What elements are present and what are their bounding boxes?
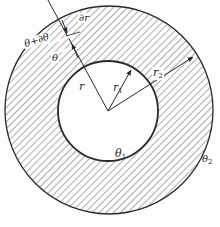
label-r: r <box>79 81 84 92</box>
label-theta2: θ2 <box>202 154 213 166</box>
label-dr: ∂r <box>78 13 90 23</box>
diagram-canvas: ∂r θ+∂θ θ r r1 r2 θ1 θ2 <box>0 0 220 227</box>
label-theta1: θ1 <box>115 148 126 161</box>
label-r1-sub: 1 <box>118 87 122 95</box>
annulus-figure <box>0 0 220 227</box>
label-theta1-sub: 1 <box>122 153 126 161</box>
label-theta1-base: θ <box>115 147 122 160</box>
label-r1: r1 <box>113 82 123 95</box>
label-theta2-sub: 2 <box>208 158 212 166</box>
label-r2: r2 <box>152 67 164 80</box>
label-theta: θ <box>51 53 59 63</box>
label-r2-sub: 2 <box>158 72 162 80</box>
